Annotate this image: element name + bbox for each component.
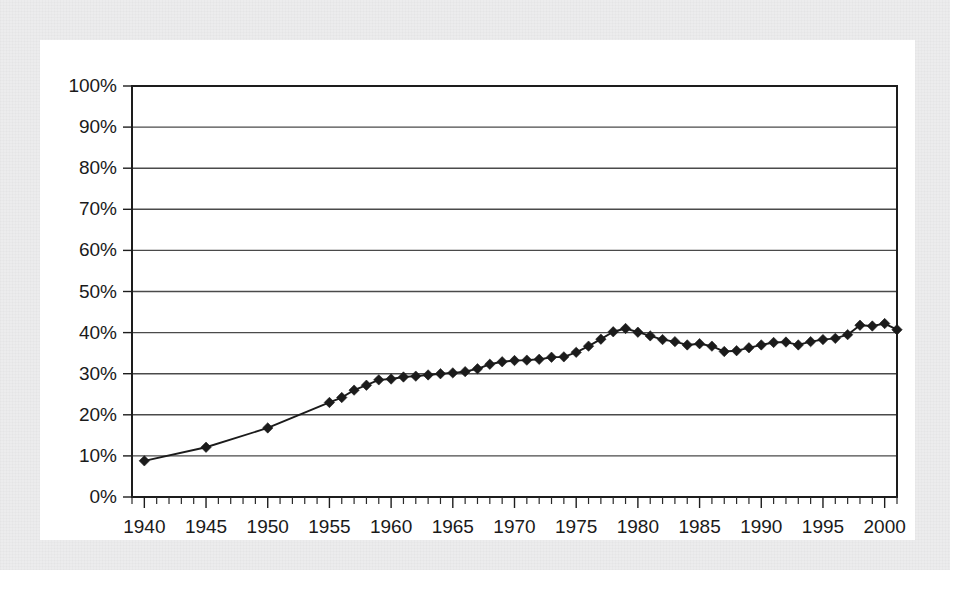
- data-point: [386, 374, 396, 384]
- data-point: [411, 371, 421, 381]
- data-point: [522, 355, 532, 365]
- gridlines: [132, 127, 897, 456]
- data-point: [596, 334, 606, 344]
- data-point: [448, 368, 458, 378]
- data-point: [707, 341, 717, 351]
- chart-card: 0%10%20%30%40%50%60%70%80%90%100% 194019…: [40, 40, 915, 540]
- data-point: [485, 359, 495, 369]
- y-tick-label-0: 0%: [90, 486, 118, 507]
- data-point: [744, 343, 754, 353]
- data-point: [793, 340, 803, 350]
- y-tick-label-20: 20%: [79, 404, 117, 425]
- data-point: [608, 327, 618, 337]
- data-point: [682, 340, 692, 350]
- data-point: [435, 369, 445, 379]
- x-tick-label-1975: 1975: [555, 516, 597, 537]
- data-point: [719, 346, 729, 356]
- x-tick-label-1980: 1980: [617, 516, 659, 537]
- y-tick-label-30: 30%: [79, 363, 117, 384]
- x-axis-ticks: [132, 497, 897, 508]
- data-series: [139, 318, 902, 466]
- y-tick-label-70: 70%: [79, 198, 117, 219]
- data-point: [460, 366, 470, 376]
- data-point: [497, 357, 507, 367]
- x-tick-label-1940: 1940: [123, 516, 165, 537]
- y-tick-label-50: 50%: [79, 281, 117, 302]
- data-point: [571, 347, 581, 357]
- x-tick-label-1965: 1965: [432, 516, 474, 537]
- data-point: [472, 364, 482, 374]
- x-tick-label-2000: 2000: [864, 516, 906, 537]
- data-point: [694, 338, 704, 348]
- x-tick-label-1945: 1945: [185, 516, 227, 537]
- data-point: [546, 352, 556, 362]
- y-tick-label-100: 100%: [68, 75, 117, 96]
- data-point: [768, 337, 778, 347]
- line-chart: 0%10%20%30%40%50%60%70%80%90%100% 194019…: [40, 40, 915, 540]
- data-point: [756, 340, 766, 350]
- y-tick-label-40: 40%: [79, 322, 117, 343]
- data-point: [201, 442, 211, 452]
- data-point: [361, 380, 371, 390]
- x-tick-label-1995: 1995: [802, 516, 844, 537]
- x-tick-label-1970: 1970: [493, 516, 535, 537]
- y-axis-ticks: [123, 86, 132, 497]
- data-point: [509, 355, 519, 365]
- data-point: [670, 336, 680, 346]
- x-tick-label-1960: 1960: [370, 516, 412, 537]
- data-point: [818, 334, 828, 344]
- x-tick-label-1955: 1955: [308, 516, 350, 537]
- y-axis-tick-labels: 0%10%20%30%40%50%60%70%80%90%100%: [68, 75, 117, 507]
- data-point: [534, 354, 544, 364]
- data-point: [633, 327, 643, 337]
- y-tick-label-10: 10%: [79, 445, 117, 466]
- data-point: [349, 385, 359, 395]
- data-point: [867, 321, 877, 331]
- data-point: [374, 375, 384, 385]
- x-tick-label-1950: 1950: [247, 516, 289, 537]
- x-tick-label-1990: 1990: [740, 516, 782, 537]
- x-tick-label-1985: 1985: [678, 516, 720, 537]
- data-point: [657, 334, 667, 344]
- figure-page: 0%10%20%30%40%50%60%70%80%90%100% 194019…: [0, 0, 972, 603]
- y-tick-label-90: 90%: [79, 116, 117, 137]
- data-point: [263, 423, 273, 433]
- data-point: [324, 397, 334, 407]
- data-point: [781, 337, 791, 347]
- data-point: [559, 352, 569, 362]
- data-point: [423, 370, 433, 380]
- data-point: [879, 318, 889, 328]
- data-point: [337, 392, 347, 402]
- data-point: [583, 341, 593, 351]
- data-point: [892, 325, 902, 335]
- data-point: [830, 333, 840, 343]
- y-tick-label-80: 80%: [79, 157, 117, 178]
- chart-canvas: 0%10%20%30%40%50%60%70%80%90%100% 194019…: [40, 40, 915, 540]
- x-axis-tick-labels: 1940194519501955196019651970197519801985…: [123, 516, 906, 537]
- data-point: [805, 336, 815, 346]
- data-point: [139, 456, 149, 466]
- y-tick-label-60: 60%: [79, 239, 117, 260]
- data-point: [731, 345, 741, 355]
